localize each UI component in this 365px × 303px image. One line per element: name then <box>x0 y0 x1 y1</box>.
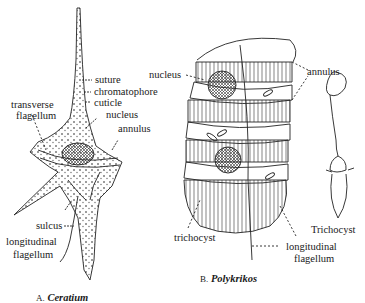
label-trichocyst-b: trichocyst <box>174 232 215 243</box>
label-cuticle: cuticle <box>94 97 122 108</box>
label-nucleus-b: nucleus <box>149 69 181 80</box>
caption-a-name: Ceratium <box>47 292 88 303</box>
polykrikos-drawing <box>184 38 308 260</box>
label-trichocyst-inset: Trichocyst <box>311 224 356 235</box>
label-sulcus: sulcus <box>36 220 62 231</box>
trichocyst-drawing <box>326 72 354 218</box>
label-longitudinal-flagellum-a-line2: flagellum <box>13 249 53 260</box>
label-annulus-a: annulus <box>118 123 151 134</box>
label-annulus-b: annulus <box>307 66 340 77</box>
label-chromatophore: chromatophore <box>94 86 158 97</box>
label-longitudinal-flagellum-a-line1: longitudinal <box>6 236 57 247</box>
label-nucleus-a: nucleus <box>106 109 138 120</box>
label-longitudinal-flagellum-b-line1: longitudinal <box>286 241 337 252</box>
label-transverse-flagellum-line2: flagellum <box>16 110 56 121</box>
caption-b: B. Polykrikos <box>200 273 257 284</box>
label-transverse-flagellum-line1: transverse <box>11 99 54 110</box>
label-longitudinal-flagellum-b-line2: flagellum <box>294 253 334 264</box>
caption-b-letter: B. <box>200 274 208 284</box>
caption-b-name: Polykrikos <box>211 273 257 284</box>
caption-a-letter: A. <box>36 293 45 303</box>
label-suture: suture <box>95 74 121 85</box>
caption-a: A. Ceratium <box>36 292 88 303</box>
